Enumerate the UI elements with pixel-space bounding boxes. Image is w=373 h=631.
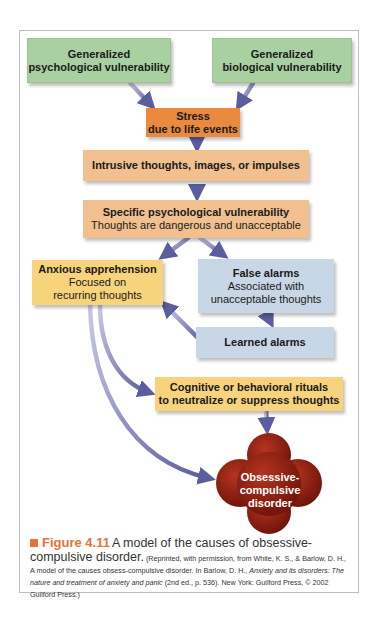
figure-label: Figure 4.11: [42, 535, 110, 550]
arrow-anxious-to-rituals: [100, 305, 148, 392]
node-title: Obsessive-: [228, 471, 312, 484]
arrow-specific-to-false: [200, 238, 222, 254]
node-subtitle: Associated with: [228, 280, 304, 293]
node-title: False alarms: [233, 267, 300, 280]
node-title: Learned alarms: [224, 336, 305, 349]
node-title: to neutralize or suppress thoughts: [159, 394, 340, 407]
node-title: Cognitive or behavioral rituals: [170, 381, 328, 394]
caption-square-icon: [30, 539, 38, 547]
arrow-rituals-to-ocd: [266, 411, 267, 427]
node-title: Generalized: [251, 48, 313, 61]
node-anxious-apprehension: Anxious apprehension Focused on recurrin…: [32, 260, 163, 305]
node-cognitive-behavioral-rituals: Cognitive or behavioral rituals to neutr…: [155, 377, 343, 411]
node-title: compulsive: [228, 484, 312, 497]
arrow-bio-to-stress: [240, 83, 253, 104]
caption-title: A model of the causes of obsessive-: [112, 536, 312, 550]
arrow-false-to-learned: [266, 313, 270, 321]
node-title: Stress: [176, 110, 210, 123]
node-ocd-label: Obsessive- compulsive disorder: [228, 471, 312, 510]
arrow-specific-to-anxious: [165, 238, 188, 255]
node-subtitle: due to life events: [148, 123, 238, 136]
node-title: Generalized: [68, 48, 130, 61]
arrow-psych-to-stress: [130, 83, 150, 104]
node-false-alarms: False alarms Associated with unacceptabl…: [198, 259, 334, 313]
node-title: Intrusive thoughts, images, or impulses: [92, 159, 300, 172]
node-title: disorder: [228, 497, 312, 510]
node-stress: Stress due to life events: [146, 108, 240, 137]
node-generalized-psychological-vulnerability: Generalized psychological vulnerability: [27, 38, 171, 83]
node-subtitle: recurring thoughts: [53, 289, 142, 302]
caption-title: compulsive disorder.: [30, 550, 144, 564]
node-specific-psychological-vulnerability: Specific psychological vulnerability Tho…: [83, 200, 309, 238]
node-subtitle: unacceptable thoughts: [211, 293, 322, 306]
node-title: psychological vulnerability: [28, 61, 169, 74]
node-title: Anxious apprehension: [38, 263, 157, 276]
figure-caption: Figure 4.11 A model of the causes of obs…: [30, 537, 350, 601]
node-generalized-biological-vulnerability: Generalized biological vulnerability: [212, 38, 352, 83]
node-intrusive-thoughts: Intrusive thoughts, images, or impulses: [83, 150, 309, 181]
node-subtitle: Thoughts are dangerous and unacceptable: [91, 219, 301, 232]
node-learned-alarms: Learned alarms: [196, 327, 334, 358]
node-title: Specific psychological vulnerability: [103, 206, 289, 219]
node-title: biological vulnerability: [222, 61, 341, 74]
node-subtitle: Focused on: [69, 276, 126, 289]
